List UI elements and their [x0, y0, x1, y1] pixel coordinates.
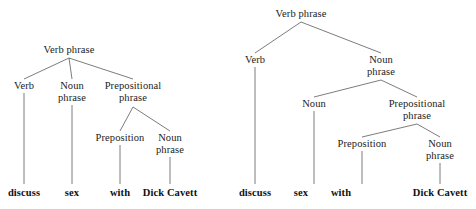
right-node-noun: Noun: [302, 98, 326, 110]
right-node-preposition: Preposition: [338, 138, 387, 150]
right-tree: Verb phrase Verb Noun phrase Noun Prepos…: [0, 0, 476, 209]
right-node-prepositional-phrase: Prepositional phrase: [389, 98, 446, 121]
right-terminal-dick-cavett: Dick Cavett: [413, 187, 467, 199]
right-node-verb-phrase: Verb phrase: [276, 8, 327, 20]
right-terminal-discuss: discuss: [239, 187, 271, 199]
syntax-tree-figure: Verb phrase Verb Noun phrase Preposition…: [0, 0, 476, 209]
right-terminal-with: with: [331, 187, 351, 199]
right-node-pp-noun-phrase: Noun phrase: [426, 138, 454, 161]
right-terminal-sex: sex: [294, 187, 308, 199]
right-node-noun-phrase: Noun phrase: [367, 54, 395, 77]
right-node-verb: Verb: [245, 54, 265, 66]
